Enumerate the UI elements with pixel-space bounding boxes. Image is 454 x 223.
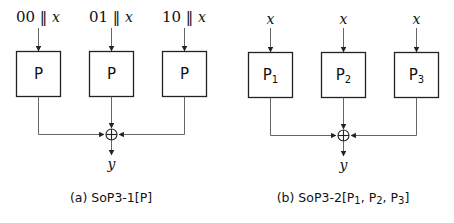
output-label-a: y: [107, 156, 117, 172]
sop-diagram: 00 ‖ x 01 ‖ x 10 ‖ x P P P y: [0, 0, 454, 223]
wire-b1-to-xor: [271, 98, 337, 136]
input-label-a3: 10 ‖ x: [162, 8, 206, 26]
box-label-a2: P: [107, 65, 116, 83]
caption-b: (b) SoP3-2[P1, P2, P3]: [277, 190, 410, 206]
box-label-a1: P: [34, 65, 43, 83]
panel-b: x x x P1 P2 P3 y: [249, 11, 439, 206]
input-label-a2: 01 ‖ x: [89, 8, 133, 26]
input-label-a1: 00 ‖ x: [16, 8, 60, 26]
input-label-b1: x: [267, 11, 275, 27]
caption-a: (a) SoP3-1[P]: [70, 190, 152, 205]
wire-b3-to-xor: [351, 98, 417, 136]
box-label-a3: P: [180, 65, 189, 83]
input-label-b2: x: [340, 11, 348, 27]
panel-a: 00 ‖ x 01 ‖ x 10 ‖ x P P P y: [16, 8, 207, 205]
wire-a3-to-xor: [119, 97, 185, 135]
xor-icon-b: [338, 130, 349, 141]
output-label-b: y: [339, 157, 349, 173]
wire-a1-to-xor: [39, 97, 105, 135]
input-label-b3: x: [413, 11, 421, 27]
xor-icon-a: [106, 129, 117, 140]
